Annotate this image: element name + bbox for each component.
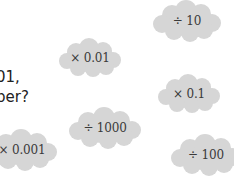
cloud-multiply-0-1[interactable]: × 0.1 xyxy=(157,74,221,114)
question-text-line-1: 01, xyxy=(0,68,20,86)
cloud-multiply-0-01[interactable]: × 0.01 xyxy=(58,38,122,78)
worksheet-stage: 01, ber? ÷ 10 xyxy=(0,0,234,182)
cloud-label: × 0.01 xyxy=(70,51,109,65)
cloud-label: × 0.001 xyxy=(0,143,45,157)
cloud-divide-10[interactable]: ÷ 10 xyxy=(152,0,222,42)
cloud-label: ÷ 10 xyxy=(173,14,201,28)
cloud-label: × 0.1 xyxy=(173,87,205,101)
cloud-label: ÷ 1000 xyxy=(83,121,126,135)
cloud-divide-100[interactable]: ÷ 100 xyxy=(170,134,234,176)
cloud-multiply-0-001[interactable]: × 0.001 xyxy=(0,129,58,171)
cloud-label: ÷ 100 xyxy=(188,148,224,162)
question-text-line-2: ber? xyxy=(0,88,29,106)
cloud-divide-1000[interactable]: ÷ 1000 xyxy=(68,107,142,149)
